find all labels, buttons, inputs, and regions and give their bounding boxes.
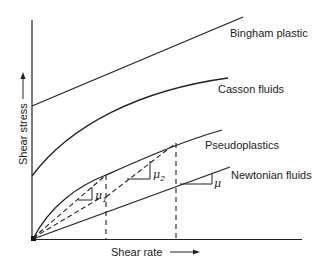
slope-label-mu: μ — [214, 177, 221, 190]
curve-casson-fluids — [32, 78, 228, 176]
slope-label-mu2: μ2 — [153, 168, 165, 183]
label-newtonian-fluids: Newtonian fluids — [231, 169, 312, 181]
label-pseudoplastics: Pseudoplastics — [205, 139, 279, 151]
rheology-diagram: μ1 μ2 μ Bingham plastic Casson fluids Ps… — [0, 0, 322, 266]
x-axis-label: Shear rate — [111, 246, 162, 258]
label-casson-fluids: Casson fluids — [218, 83, 285, 95]
y-arrow-head-icon — [21, 72, 26, 79]
slope-label-mu1: μ1 — [95, 189, 107, 204]
dashed-secant-1 — [33, 175, 106, 238]
curve-newtonian-fluids — [33, 167, 230, 239]
label-bingham-plastic: Bingham plastic — [230, 27, 308, 39]
curve-bingham-plastic — [32, 17, 243, 106]
y-axis-label: Shear stress — [17, 103, 29, 165]
x-arrow-head-icon — [193, 250, 200, 255]
